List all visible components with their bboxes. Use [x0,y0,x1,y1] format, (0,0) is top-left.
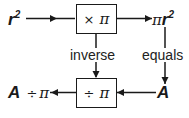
arrowhead-icon [51,89,58,96]
multiply-by-pi-box: ×π [76,4,117,34]
function-machine-diagram: r2 ×π πr2 inverse equals ÷π A A ÷π [0,0,189,118]
arrowhead-icon [145,15,152,22]
arrowhead-icon [117,89,124,96]
inverse-label: inverse [69,48,116,62]
output-a-div-pi: A ÷π [8,84,49,101]
arrowhead-icon [50,15,57,22]
arrowhead-icon [93,71,100,78]
equals-label: equals [141,48,184,62]
input-r-squared: r2 [8,10,20,28]
output-pi-r-squared: πr2 [152,10,174,28]
area-a: A [157,84,169,101]
divide-by-pi-box: ÷π [76,78,117,108]
